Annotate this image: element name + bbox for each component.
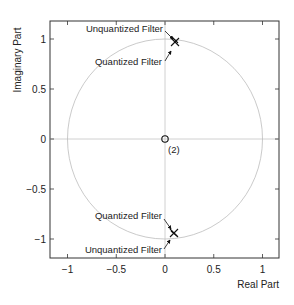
x-axis-label: Real Part xyxy=(237,279,279,290)
x-tick-labels: −1 −0.5 0 0.5 1 xyxy=(62,264,266,275)
plot-frame xyxy=(50,21,279,258)
x-tick-label: 0 xyxy=(162,264,168,275)
y-axis-label: Imaginary Part xyxy=(12,27,23,92)
x-tick-label: −1 xyxy=(62,264,74,275)
annotation-top-quantized: Quantized Filter xyxy=(95,56,162,67)
annotation-top-unquantized: Unquantized Filter xyxy=(86,23,163,34)
zero-multiplicity-label: (2) xyxy=(168,144,180,155)
y-tick-label: 0.5 xyxy=(32,84,46,95)
x-tick-label: 0.5 xyxy=(207,264,221,275)
y-tick-label: 0 xyxy=(40,134,46,145)
y-tick-label: 1 xyxy=(40,34,46,45)
y-tick-label: −0.5 xyxy=(26,184,46,195)
y-tick-label: −1 xyxy=(35,234,47,245)
x-tick-label: −0.5 xyxy=(106,264,126,275)
pole-zero-plot: −1 −0.5 0 0.5 1 1 0.5 0 −0.5 −1 Real Par… xyxy=(0,0,294,305)
y-tick-labels: 1 0.5 0 −0.5 −1 xyxy=(26,34,46,245)
annotation-bottom-unquantized: Unquantized Filter xyxy=(85,244,162,255)
plot-svg: −1 −0.5 0 0.5 1 1 0.5 0 −0.5 −1 Real Par… xyxy=(0,0,294,305)
x-tick-label: 1 xyxy=(260,264,266,275)
annotation-bottom-quantized: Quantized Filter xyxy=(95,210,162,221)
